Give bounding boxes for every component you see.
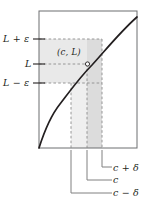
figure-canvas [0, 0, 151, 206]
x-axis-label-lower: c − δ [113, 188, 139, 198]
x-axis-label-center: c [113, 175, 119, 185]
point-label-cL: (c, L) [57, 48, 81, 57]
leader-line-c [87, 150, 112, 180]
leader-line-c-plus-delta [102, 150, 112, 167]
limit-definition-figure: L + ε L L − ε (c, L) c + δ c c − δ [0, 0, 151, 206]
x-axis-label-upper: c + δ [113, 163, 139, 173]
y-axis-label-center: L [25, 59, 32, 69]
delta-band-shading-left [71, 83, 87, 148]
leader-line-c-minus-delta [71, 150, 112, 193]
delta-band-shading-right-lower [87, 83, 102, 148]
y-axis-label-upper: L + ε [3, 34, 29, 44]
marked-point-cL [85, 62, 89, 66]
y-axis-label-lower: L − ε [3, 78, 29, 88]
